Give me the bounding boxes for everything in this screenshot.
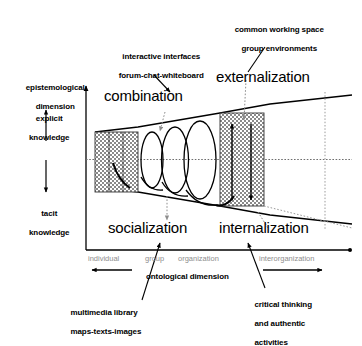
multimedia-library-line1: multimedia library: [71, 308, 138, 317]
right-block-rect: [220, 113, 264, 206]
critical-thinking-line2: and authentic: [255, 319, 306, 328]
explicit-line1: explicit: [36, 114, 63, 123]
x-tick-interorganization: interorganization: [259, 254, 314, 263]
common-working-space-line1: common working space: [235, 25, 324, 34]
left-hatched-block: [95, 132, 138, 192]
critical-thinking-line1: critical thinking: [255, 300, 312, 309]
x-tick-organization: organization: [178, 254, 219, 263]
tacit-line1: tacit: [41, 209, 57, 218]
seci-diagram: epistemological dimension explicit knowl…: [0, 0, 362, 346]
epistemological-line1: epistemological: [26, 83, 85, 92]
multimedia-library-line2: maps-texts-images: [71, 327, 142, 336]
interactive-interfaces-annotation: interactive interfaces forum-chat-whiteb…: [96, 42, 218, 90]
ontological-dimension-label: ontological dimension: [146, 272, 229, 282]
x-tick-group: group: [145, 254, 164, 263]
common-working-space-line2: group environments: [241, 44, 317, 53]
mode-internalization-label: internalization: [219, 219, 309, 236]
explicit-line2: knowledge: [29, 133, 69, 142]
mode-socialization-label: socialization: [108, 219, 187, 236]
tacit-knowledge-label: tacit knowledge: [8, 199, 82, 247]
mode-combination-label: combination: [104, 87, 183, 104]
leader-combination-dotted: [160, 112, 165, 131]
critical-thinking-line3: activities: [255, 338, 288, 346]
spiral-loops: [141, 121, 216, 205]
mode-externalization-label: externalization: [216, 68, 310, 85]
x-tick-individual: individual: [88, 254, 119, 263]
common-working-space-annotation: common working space group environments: [213, 15, 337, 63]
critical-thinking-annotation: critical thinking and authentic activiti…: [246, 290, 312, 346]
x-axis-end-dot: [348, 248, 352, 252]
interactive-interfaces-line2: forum-chat-whiteboard: [119, 71, 204, 80]
right-hatched-block: [216, 113, 264, 206]
multimedia-library-annotation: multimedia library maps-texts-images: [62, 298, 141, 346]
right-dotted-frame: [264, 92, 352, 230]
left-block-rect: [95, 132, 138, 192]
tacit-line2: knowledge: [29, 228, 69, 237]
explicit-knowledge-label: explicit knowledge: [8, 104, 82, 152]
interactive-interfaces-line1: interactive interfaces: [122, 52, 200, 61]
